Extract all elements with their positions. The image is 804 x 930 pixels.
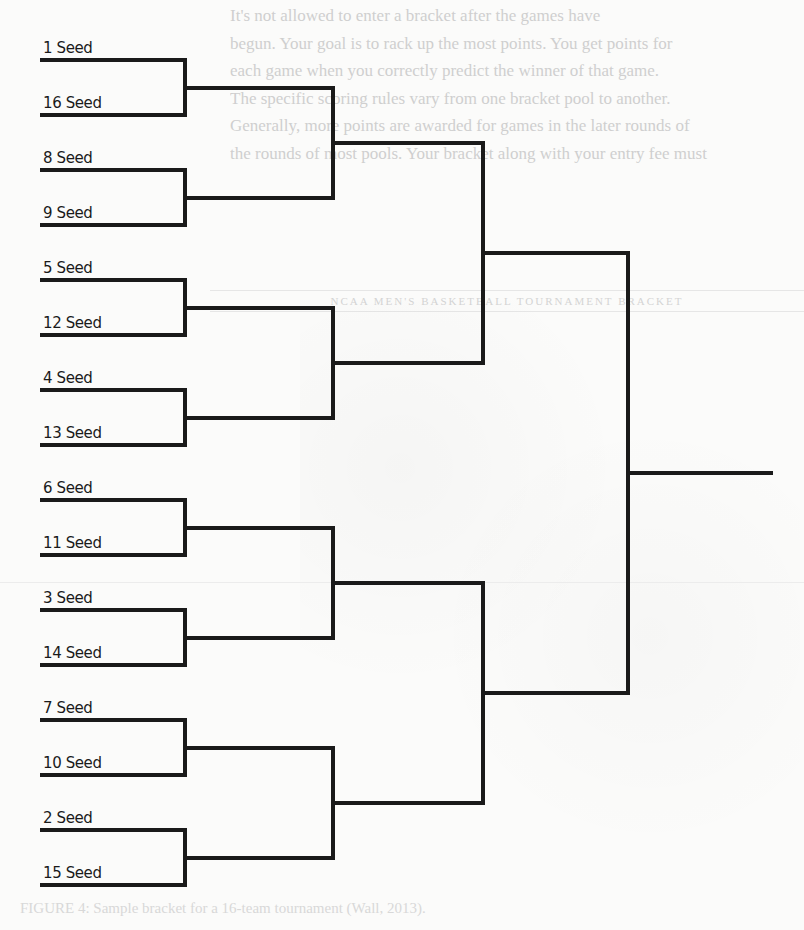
seed-label: 7 Seed <box>43 699 92 717</box>
round2-slot[interactable] <box>183 526 335 530</box>
bleed-line: each game when you correctly predict the… <box>230 57 804 85</box>
seed-label: 12 Seed <box>43 314 102 332</box>
seed-line <box>40 663 185 667</box>
seed-label: 11 Seed <box>43 534 102 552</box>
seed-label: 9 Seed <box>43 204 92 222</box>
round2-slot[interactable] <box>183 306 335 310</box>
seed-line <box>40 223 185 227</box>
seed-line <box>40 168 185 172</box>
bleed-line: Generally, more points are awarded for g… <box>230 112 804 140</box>
round4-slot[interactable] <box>481 251 630 255</box>
seed-line <box>40 278 185 282</box>
round3-slot[interactable] <box>331 801 485 805</box>
background-bleed-text: It's not allowed to enter a bracket afte… <box>230 2 804 167</box>
seed-label: 14 Seed <box>43 644 102 662</box>
round2-slot[interactable] <box>183 86 335 90</box>
seed-line <box>40 388 185 392</box>
round2-slot[interactable] <box>183 636 335 640</box>
seed-label: 8 Seed <box>43 149 92 167</box>
seed-line <box>40 608 185 612</box>
round3-slot[interactable] <box>331 581 485 585</box>
bleed-line: begun. Your goal is to rack up the most … <box>230 30 804 58</box>
seed-label: 4 Seed <box>43 369 92 387</box>
seed-label: 3 Seed <box>43 589 92 607</box>
bleed-line: It's not allowed to enter a bracket afte… <box>230 2 804 30</box>
round3-slot[interactable] <box>331 141 485 145</box>
background-footer-caption: FIGURE 4: Sample bracket for a 16-team t… <box>20 900 804 917</box>
round2-slot[interactable] <box>183 196 335 200</box>
seed-label: 13 Seed <box>43 424 102 442</box>
seed-label: 2 Seed <box>43 809 92 827</box>
seed-line <box>40 113 185 117</box>
seed-label: 6 Seed <box>43 479 92 497</box>
background-texture <box>300 300 800 860</box>
seed-line <box>40 828 185 832</box>
seed-label: 16 Seed <box>43 94 102 112</box>
round3-slot[interactable] <box>331 361 485 365</box>
round2-slot[interactable] <box>183 746 335 750</box>
seed-line <box>40 553 185 557</box>
seed-label: 10 Seed <box>43 754 102 772</box>
seed-line <box>40 718 185 722</box>
seed-line <box>40 883 185 887</box>
bleed-line: the rounds of most pools. Your bracket a… <box>230 140 804 168</box>
seed-line <box>40 773 185 777</box>
round4-slot[interactable] <box>481 691 630 695</box>
seed-line <box>40 333 185 337</box>
round2-slot[interactable] <box>183 856 335 860</box>
seed-label: 5 Seed <box>43 259 92 277</box>
seed-line <box>40 498 185 502</box>
seed-line <box>40 58 185 62</box>
seed-label: 15 Seed <box>43 864 102 882</box>
round2-slot[interactable] <box>183 416 335 420</box>
seed-line <box>40 443 185 447</box>
seed-label: 1 Seed <box>43 39 92 57</box>
champion-slot[interactable] <box>626 471 773 475</box>
